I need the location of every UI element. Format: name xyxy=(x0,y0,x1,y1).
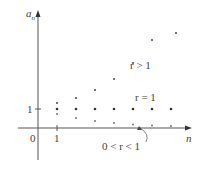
series-r-greater-than-1 xyxy=(56,32,177,104)
x-axis-label: n xyxy=(186,132,192,144)
legend-r-between-0-and-1: 0 < r < 1 xyxy=(102,140,140,152)
legend-r-equals-1: r = 1 xyxy=(135,91,156,103)
x-axis-arrow-icon xyxy=(185,126,192,131)
series-r-between-0-and-1 xyxy=(56,113,172,127)
y-axis xyxy=(36,10,41,160)
x-tick-1-label: 1 xyxy=(54,132,60,144)
x-axis xyxy=(18,126,192,131)
y-axis-label: an xyxy=(26,7,36,22)
origin-label: 0 xyxy=(30,132,36,144)
series-r-equals-1 xyxy=(56,108,173,111)
annotation-leader-line xyxy=(140,128,147,142)
y-axis-arrow-icon xyxy=(36,10,41,17)
y-tick-1-label: 1 xyxy=(27,103,33,115)
legend-r-greater-than-1: r > 1 xyxy=(130,59,151,71)
sequence-plot: an n 0 1 1 r > 1 r = 1 0 < r < 1 xyxy=(0,0,210,172)
